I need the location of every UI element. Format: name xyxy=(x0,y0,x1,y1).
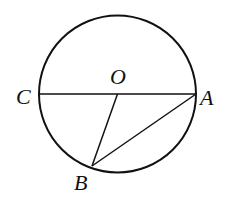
circle-diagram: O A C B xyxy=(0,0,225,199)
radius-ob xyxy=(92,94,118,166)
label-b: B xyxy=(74,170,87,195)
label-a: A xyxy=(198,85,214,110)
chord-ba xyxy=(92,94,196,166)
label-c: C xyxy=(16,84,31,109)
label-o: O xyxy=(110,64,126,89)
